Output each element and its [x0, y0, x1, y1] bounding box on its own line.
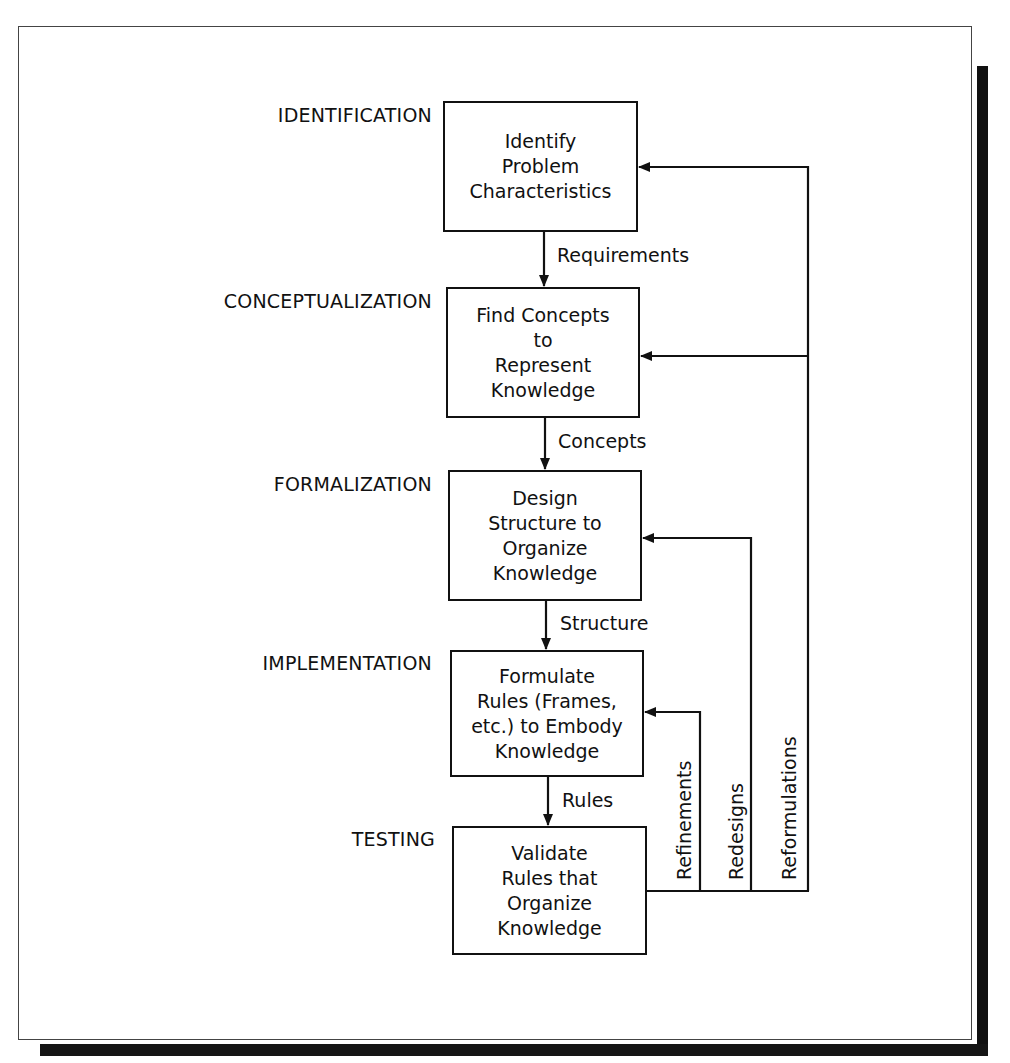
stage-label-conceptualization: CONCEPTUALIZATION	[224, 290, 432, 312]
stage-label-identification: IDENTIFICATION	[278, 104, 432, 126]
stage-label-formalization: FORMALIZATION	[274, 473, 432, 495]
feedback-label-reformulations: Reformulations	[778, 736, 800, 880]
process-box-text: Find Concepts to Represent Knowledge	[476, 303, 609, 403]
process-box-identify: Identify Problem Characteristics	[443, 101, 638, 232]
process-box-text: Design Structure to Organize Knowledge	[488, 486, 602, 586]
process-box-text: Identify Problem Characteristics	[469, 129, 611, 204]
process-box-text: Validate Rules that Organize Knowledge	[497, 841, 601, 941]
stage-label-implementation: IMPLEMENTATION	[263, 652, 433, 674]
process-box-validate: Validate Rules that Organize Knowledge	[452, 826, 647, 955]
feedback-label-redesigns: Redesigns	[725, 783, 747, 880]
process-box-concepts: Find Concepts to Represent Knowledge	[446, 287, 640, 418]
flow-label-structure: Structure	[560, 612, 648, 634]
flow-label-rules: Rules	[562, 789, 613, 811]
process-box-design: Design Structure to Organize Knowledge	[448, 470, 642, 601]
flow-label-requirements: Requirements	[557, 244, 689, 266]
flow-label-concepts: Concepts	[558, 430, 646, 452]
stage-label-testing: TESTING	[352, 828, 435, 850]
process-box-formulate: Formulate Rules (Frames, etc.) to Embody…	[450, 650, 644, 777]
feedback-label-refinements: Refinements	[673, 761, 695, 880]
process-box-text: Formulate Rules (Frames, etc.) to Embody…	[471, 664, 623, 764]
